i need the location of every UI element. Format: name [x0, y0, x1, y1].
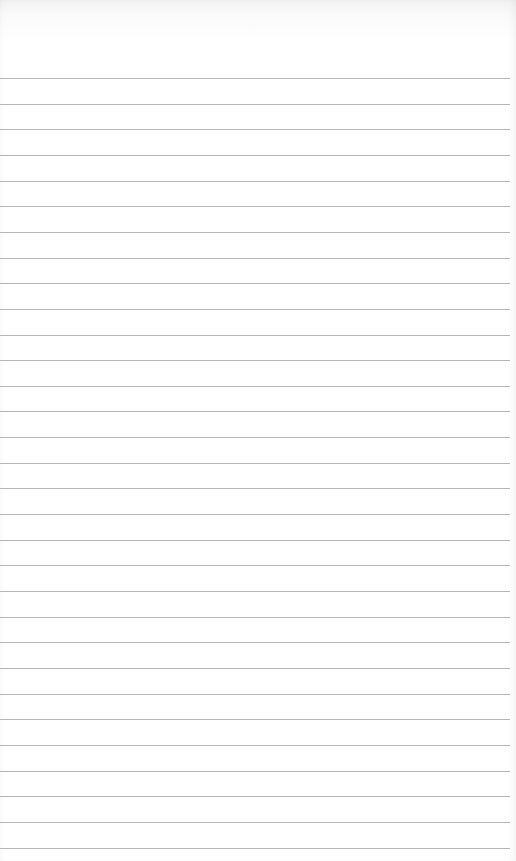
ruled-line	[0, 360, 510, 361]
ruled-line	[0, 565, 510, 566]
lined-paper	[0, 0, 516, 861]
ruled-line	[0, 488, 510, 489]
ruled-line	[0, 463, 510, 464]
ruled-line	[0, 796, 510, 797]
ruled-line	[0, 206, 510, 207]
ruled-line	[0, 232, 510, 233]
ruled-line	[0, 514, 510, 515]
ruled-line	[0, 104, 510, 105]
ruled-line	[0, 181, 510, 182]
ruled-line	[0, 719, 510, 720]
ruled-line	[0, 694, 510, 695]
ruled-line	[0, 745, 510, 746]
ruled-line	[0, 129, 510, 130]
ruled-line	[0, 386, 510, 387]
ruled-line	[0, 668, 510, 669]
ruled-line	[0, 155, 510, 156]
ruled-line	[0, 540, 510, 541]
ruled-line	[0, 309, 510, 310]
ruled-line	[0, 771, 510, 772]
ruled-line	[0, 283, 510, 284]
ruled-line	[0, 437, 510, 438]
ruled-line	[0, 411, 510, 412]
ruled-line	[0, 822, 510, 823]
ruled-line	[0, 848, 510, 849]
ruled-line	[0, 335, 510, 336]
ruled-line	[0, 591, 510, 592]
ruled-line	[0, 617, 510, 618]
ruled-line	[0, 258, 510, 259]
ruled-line	[0, 78, 510, 79]
ruled-line	[0, 642, 510, 643]
